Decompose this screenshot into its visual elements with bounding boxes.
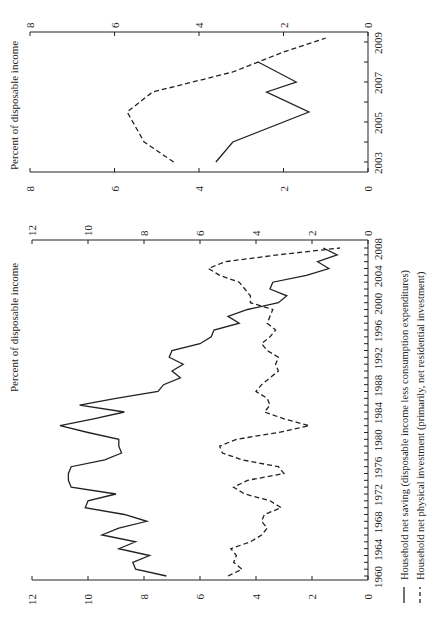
year-tick-label: 1960 bbox=[372, 566, 384, 589]
main-net-saving-line bbox=[60, 248, 337, 576]
value-tick-label: 2 bbox=[306, 231, 318, 237]
inset-net-saving-line bbox=[216, 62, 309, 162]
value-tick-label: 4 bbox=[250, 230, 262, 236]
inset-y-axis-label: Percent of disposable income bbox=[8, 41, 20, 170]
year-tick-label: 2000 bbox=[372, 292, 384, 315]
value-tick-label: 6 bbox=[109, 22, 121, 28]
year-tick-label: 1988 bbox=[372, 374, 384, 397]
year-tick-label: 1980 bbox=[372, 429, 384, 452]
value-tick-label: 10 bbox=[82, 594, 94, 606]
legend-item-solid: Household net saving (disposable income … bbox=[399, 270, 411, 603]
year-tick-label: 1984 bbox=[372, 402, 384, 425]
year-tick-label: 1964 bbox=[372, 538, 384, 561]
value-tick-label: 2 bbox=[278, 23, 290, 29]
value-tick-label: 8 bbox=[24, 22, 36, 28]
legend: Household net saving (disposable income … bbox=[399, 270, 427, 603]
main-net-investment-line bbox=[208, 248, 340, 576]
value-tick-label: 0 bbox=[362, 22, 374, 28]
inset-panel-2003-2009: 00224466882003200520072009 Percent of di… bbox=[8, 22, 384, 192]
value-tick-label: 0 bbox=[362, 186, 374, 192]
year-tick-label: 1996 bbox=[372, 320, 384, 343]
year-tick-label: 2009 bbox=[372, 32, 384, 55]
year-tick-label: 1992 bbox=[372, 347, 384, 369]
value-tick-label: 4 bbox=[250, 594, 262, 600]
value-tick-label: 6 bbox=[194, 594, 206, 600]
chart-svg: 00224466882003200520072009 Percent of di… bbox=[0, 0, 438, 620]
year-tick-label: 1976 bbox=[372, 456, 384, 479]
main-axes: 0022446688101012121960196419681972197619… bbox=[26, 225, 384, 606]
year-tick-label: 2007 bbox=[372, 72, 384, 95]
value-tick-label: 6 bbox=[109, 186, 121, 192]
year-tick-label: 1968 bbox=[372, 511, 384, 534]
value-tick-label: 12 bbox=[26, 594, 38, 605]
year-tick-label: 2004 bbox=[372, 265, 384, 288]
value-tick-label: 8 bbox=[138, 230, 150, 236]
value-tick-label: 4 bbox=[193, 22, 205, 28]
value-tick-label: 10 bbox=[82, 225, 94, 237]
value-tick-label: 2 bbox=[306, 594, 318, 600]
year-tick-label: 2005 bbox=[372, 112, 384, 135]
value-tick-label: 8 bbox=[138, 594, 150, 600]
value-tick-label: 6 bbox=[194, 230, 206, 236]
main-panel-1960-2008: 0022446688101012121960196419681972197619… bbox=[8, 225, 384, 606]
value-tick-label: 2 bbox=[278, 186, 290, 192]
inset-net-investment-line bbox=[127, 38, 326, 162]
value-tick-label: 0 bbox=[362, 230, 374, 236]
value-tick-label: 8 bbox=[24, 186, 36, 192]
year-tick-label: 2003 bbox=[372, 152, 384, 175]
figure-canvas: 00224466882003200520072009 Percent of di… bbox=[0, 0, 438, 620]
main-y-axis-label: Percent of disposable income bbox=[8, 263, 20, 392]
legend-label-solid: Household net saving (disposable income … bbox=[399, 270, 411, 580]
legend-label-dashed: Household net physical investment (prima… bbox=[415, 271, 427, 580]
inset-axes: 00224466882003200520072009 bbox=[24, 22, 384, 192]
value-tick-label: 0 bbox=[362, 594, 374, 600]
year-tick-label: 1972 bbox=[372, 484, 384, 506]
legend-item-dashed: Household net physical investment (prima… bbox=[415, 271, 427, 603]
value-tick-label: 12 bbox=[26, 225, 38, 236]
year-tick-label: 2008 bbox=[372, 238, 384, 261]
value-tick-label: 4 bbox=[193, 186, 205, 192]
